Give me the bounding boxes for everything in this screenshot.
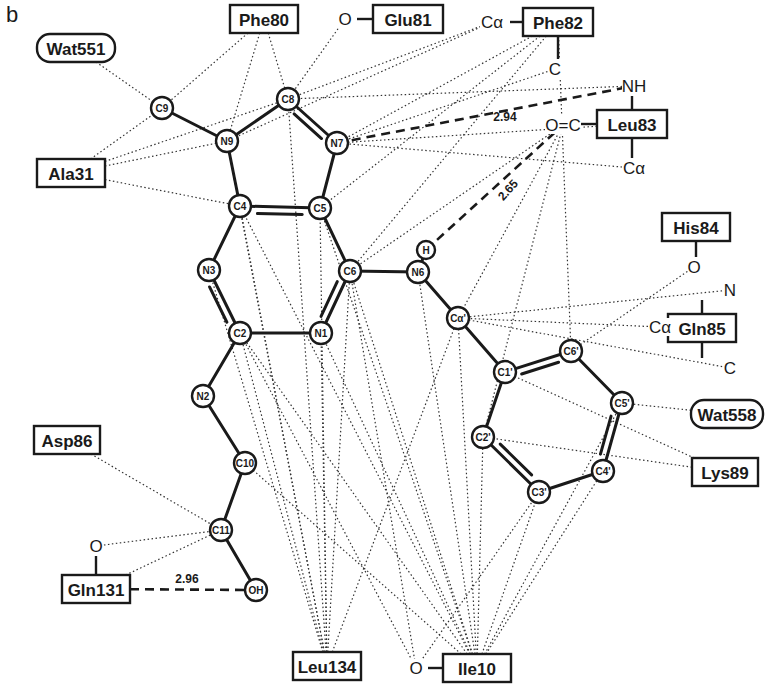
backbone-atom-label: O: [687, 258, 700, 277]
contact-line: [337, 36, 532, 143]
atom-label: C9: [156, 103, 169, 114]
backbone-atom-label: O=C: [545, 116, 580, 135]
atom-c4-prime: C4': [592, 460, 614, 482]
ligand-interaction-diagram: b 2.942.652.96 C9N9C8N7C4C5N3C6N6HC2N1Cα…: [0, 0, 780, 685]
atom-label: N2: [197, 391, 210, 402]
hbond-distance-label: 2.96: [175, 572, 199, 586]
contact-line: [337, 69, 555, 143]
residue-label: Gln131: [68, 581, 125, 600]
backbone-atom-label: Cα: [623, 159, 645, 178]
atom-label: N9: [221, 136, 234, 147]
residue-leu134: Leu134: [293, 652, 361, 680]
residue-glu81: Glu81: [373, 5, 443, 33]
backbone-atom-label: NH: [622, 77, 647, 96]
ligand-atoms: C9N9C8N7C4C5N3C6N6HC2N1Cα'C1'C6'C5'C2'C4…: [151, 88, 633, 601]
atom-label: C1': [497, 367, 512, 378]
atom-label: C8: [282, 94, 295, 105]
atom-c2-prime: C2': [472, 426, 494, 448]
contact-line: [505, 372, 694, 458]
backbone-atom-label: C: [549, 60, 561, 79]
atom-label: C10: [236, 458, 255, 469]
atom-label: N6: [412, 267, 425, 278]
residue-lys89: Lys89: [692, 458, 758, 486]
contact-line: [332, 318, 458, 652]
contact-line: [240, 333, 416, 668]
atom-h: H: [417, 241, 435, 259]
backbone-atom-label: O: [338, 10, 351, 29]
backbone-atom-label: O: [409, 659, 422, 678]
atom-n7: N7: [326, 132, 348, 154]
residue-label: Phe82: [533, 14, 583, 33]
atom-c1-prime: C1': [494, 361, 516, 383]
residue-label: Leu83: [607, 116, 656, 135]
contact-line: [483, 437, 692, 467]
atom-label: C4': [595, 466, 610, 477]
hydrogen-bond-line: [337, 86, 634, 143]
contact-line: [91, 454, 221, 530]
backbone-atom-label: O: [89, 537, 102, 556]
contact-line: [321, 333, 327, 652]
residue-ala31: Ala31: [37, 159, 105, 187]
hydrogen-bonds: 2.942.652.96: [130, 86, 634, 590]
residue-label: Ile10: [458, 660, 496, 679]
contact-line: [458, 318, 476, 654]
atom-label: C11: [212, 525, 230, 536]
atom-label: C5: [314, 203, 327, 214]
contact-line: [288, 86, 634, 99]
hydrogen-bond-line: [130, 589, 256, 590]
residue-wat551: Wat551: [37, 34, 115, 62]
atom-c4: C4: [229, 195, 251, 217]
contact-line: [105, 141, 227, 166]
backbone-atom-label: C: [724, 359, 736, 378]
atom-n2: N2: [192, 385, 214, 407]
atom-n3: N3: [198, 259, 220, 281]
atom-c5: C5: [309, 197, 331, 219]
contact-line: [105, 180, 240, 206]
contact-line: [350, 271, 416, 668]
atom-label: Cα': [450, 313, 466, 324]
contact-line: [482, 492, 539, 654]
atom-label: C6: [344, 266, 357, 277]
residue-his84: His84: [662, 213, 730, 241]
contact-line: [458, 318, 660, 327]
double-bond-line: [321, 282, 337, 317]
residue-phe82: Phe82: [523, 8, 593, 36]
contact-line: [227, 33, 260, 141]
atom-n9: N9: [216, 130, 238, 152]
hbond-distance-label: 2.65: [495, 176, 521, 203]
contact-line: [240, 333, 323, 652]
atom-c9: C9: [151, 97, 173, 119]
backbone-atom-label: Cα: [649, 318, 671, 337]
atom-c2: C2: [229, 322, 251, 344]
contact-line: [320, 208, 327, 652]
hydrogen-bond-line: [426, 125, 563, 250]
residue-label: Asp86: [41, 432, 92, 451]
atom-label: C3': [531, 487, 546, 498]
atom-c11: C11: [210, 519, 232, 541]
residue-asp86: Asp86: [34, 426, 100, 454]
residue-gln85: Gln85: [668, 314, 736, 342]
atom-label: N1: [315, 328, 328, 339]
contact-line: [96, 530, 221, 546]
contact-line: [559, 36, 571, 351]
atom-c8: C8: [277, 88, 299, 110]
atom-label: H: [422, 245, 429, 256]
contact-line: [126, 530, 221, 575]
contact-line: [227, 22, 492, 141]
residue-label: Wat551: [47, 40, 106, 59]
atom-n6: N6: [407, 261, 429, 283]
atom-label: N7: [331, 138, 344, 149]
contact-line: [245, 463, 461, 654]
residue-label: His84: [673, 219, 719, 238]
residue-wat558: Wat558: [691, 400, 763, 428]
atom-c10: C10: [234, 452, 256, 474]
residue-gln131: Gln131: [62, 575, 130, 603]
residue-label: Wat558: [698, 406, 757, 425]
atom-label: C5': [614, 398, 629, 409]
residue-label: Glu81: [384, 11, 431, 30]
atom-c6: C6: [339, 260, 361, 282]
contact-line: [162, 33, 248, 108]
atom-label: C2: [234, 328, 247, 339]
contact-line: [483, 125, 563, 437]
atom-c3-prime: C3': [528, 481, 550, 503]
